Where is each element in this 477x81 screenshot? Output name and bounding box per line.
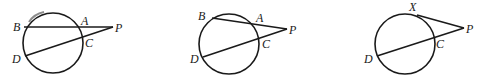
figure-3: X P C D (363, 0, 474, 74)
label-d: D (363, 52, 373, 66)
label-p: P (114, 21, 123, 35)
label-p: P (465, 22, 474, 36)
label-d: D (11, 52, 21, 66)
label-c: C (85, 36, 94, 50)
label-b: B (198, 9, 206, 23)
circle-1 (23, 13, 83, 73)
label-d: D (189, 52, 199, 66)
diagram-canvas: B A P C D B A P C D X P C D (0, 0, 477, 81)
figure-1: B A P C D (11, 12, 123, 73)
secant-dp (25, 27, 113, 56)
secant-dp (377, 28, 464, 56)
circle-3 (375, 14, 435, 74)
label-c: C (436, 37, 445, 51)
label-c: C (262, 37, 271, 51)
secant-bp (212, 18, 287, 29)
label-b: B (13, 20, 21, 34)
figure-2: B A P C D (189, 9, 297, 74)
label-x: X (408, 0, 417, 14)
label-a: A (255, 11, 264, 25)
secant-dp (203, 29, 287, 57)
label-a: A (80, 14, 89, 28)
label-p: P (288, 23, 297, 37)
